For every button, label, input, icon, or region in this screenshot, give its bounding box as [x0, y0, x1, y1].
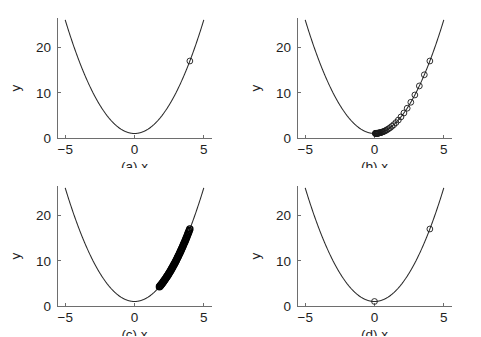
iterate-markers [156, 226, 193, 290]
plot-panel-b: −50501020y(b) x [240, 0, 480, 168]
panel-caption: (a) x [121, 159, 148, 168]
x-tick-label: −5 [298, 310, 313, 325]
x-tick-label: 0 [131, 310, 139, 325]
x-tick-label: −5 [58, 310, 73, 325]
y-axis-label: y [8, 253, 23, 260]
x-tick-label: 0 [371, 310, 379, 325]
y-tick-label: 10 [36, 86, 51, 101]
y-tick-label: 0 [43, 299, 51, 314]
x-tick-label: 0 [131, 142, 139, 157]
plot-c-svg: −50501020y(c) x [0, 168, 240, 336]
y-tick-label: 0 [283, 131, 291, 146]
y-tick-label: 0 [283, 299, 291, 314]
panel-caption: (c) x [121, 327, 147, 336]
x-tick-label: −5 [298, 142, 313, 157]
iterate-markers [372, 226, 433, 304]
y-tick-label: 20 [36, 40, 51, 55]
y-tick-label: 20 [276, 208, 291, 223]
panel-caption: (d) x [361, 327, 388, 336]
y-tick-label: 10 [36, 254, 51, 269]
y-axis-label: y [248, 253, 263, 260]
figure-canvas: −50501020y(a) x −50501020y(b) x −5050102… [0, 0, 481, 337]
iterate-markers [373, 58, 433, 136]
parabola-curve [65, 20, 203, 133]
x-tick-label: 5 [440, 310, 448, 325]
y-tick-label: 20 [276, 40, 291, 55]
parabola-curve [305, 188, 443, 301]
panel-caption: (b) x [361, 159, 388, 168]
y-axis-label: y [248, 85, 263, 92]
x-tick-label: −5 [58, 142, 73, 157]
x-tick-label: 5 [440, 142, 448, 157]
plot-b-svg: −50501020y(b) x [240, 0, 480, 168]
y-tick-label: 20 [36, 208, 51, 223]
y-tick-label: 0 [43, 131, 51, 146]
x-tick-label: 5 [200, 310, 208, 325]
plot-a-svg: −50501020y(a) x [0, 0, 240, 168]
y-axis-label: y [8, 85, 23, 92]
plot-d-svg: −50501020y(d) x [240, 168, 480, 336]
plot-panel-c: −50501020y(c) x [0, 168, 240, 336]
x-tick-label: 5 [200, 142, 208, 157]
x-tick-label: 0 [371, 142, 379, 157]
plot-panel-d: −50501020y(d) x [240, 168, 480, 336]
plot-panel-a: −50501020y(a) x [0, 0, 240, 168]
y-tick-label: 10 [276, 86, 291, 101]
y-tick-label: 10 [276, 254, 291, 269]
